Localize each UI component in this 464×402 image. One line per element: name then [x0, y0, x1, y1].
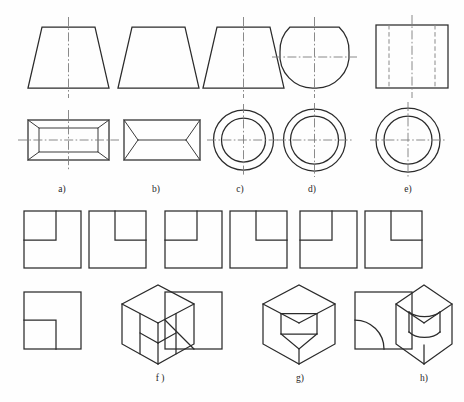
figure-b-front-view — [118, 27, 199, 88]
figure-a: a) — [18, 17, 119, 195]
figure-h-view-1 — [300, 211, 357, 268]
figure-b-caption: b) — [152, 184, 160, 195]
figure-a-caption: a) — [58, 184, 65, 195]
figure-g-caption: g) — [296, 373, 304, 384]
figure-h-pictorial — [396, 285, 452, 364]
figure-e: e) — [370, 15, 448, 195]
figure-c-top-view — [207, 104, 280, 176]
figure-h-view-3 — [355, 292, 412, 349]
figure-h-caption: h) — [420, 373, 428, 384]
figure-e-top-view — [370, 102, 447, 178]
drawing-sheet: a) b) — [0, 0, 464, 402]
figure-d-top-view — [277, 103, 352, 177]
figure-g-view-2 — [230, 211, 287, 268]
figure-f-caption: f ) — [156, 373, 165, 384]
figure-g-view-1 — [165, 211, 222, 268]
figure-f: f ) — [24, 211, 194, 384]
figure-g: g) — [165, 211, 335, 384]
figure-c-caption: c) — [236, 184, 243, 195]
technical-drawing-canvas: a) b) — [0, 0, 464, 402]
figure-f-view-1 — [24, 211, 81, 268]
figure-d: d) — [272, 17, 357, 195]
figure-g-pictorial — [263, 285, 335, 364]
figure-e-front-view — [376, 15, 448, 98]
figure-a-top-view — [18, 110, 119, 170]
figure-c-front-view — [203, 17, 284, 98]
figure-f-pictorial — [122, 285, 194, 364]
figure-e-caption: e) — [404, 184, 411, 195]
figure-c: c) — [203, 17, 284, 195]
figure-b-top-view — [124, 120, 200, 160]
figure-d-front-view — [272, 17, 357, 98]
figure-f-view-3 — [24, 292, 81, 349]
figure-h-view-2 — [365, 211, 422, 268]
figure-a-front-view — [28, 17, 109, 98]
figure-b: b) — [118, 27, 200, 195]
figure-f-view-2 — [89, 211, 146, 268]
figure-d-caption: d) — [308, 184, 316, 195]
